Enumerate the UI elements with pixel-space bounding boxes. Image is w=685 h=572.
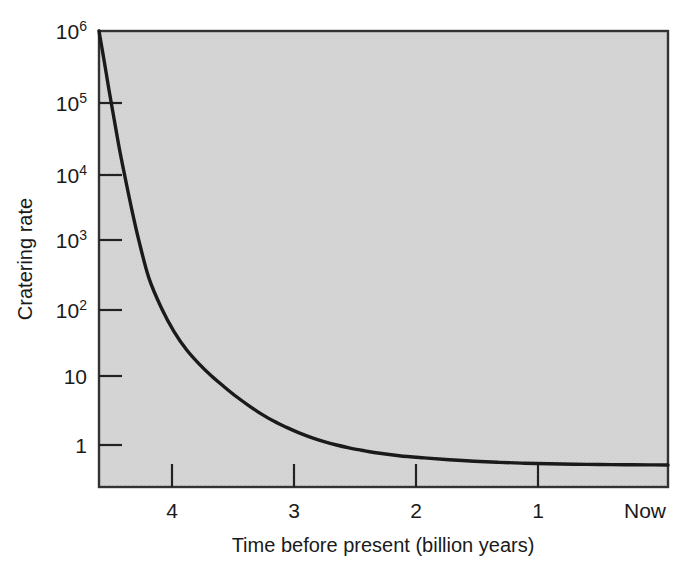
x-tick-label-2: 2 — [410, 499, 422, 522]
y-axis-title: Cratering rate — [14, 198, 36, 320]
x-tick-label-4: Now — [624, 499, 667, 522]
chart-figure: 106 105 104 103 102 10 1 4 3 2 1 Now — [0, 0, 685, 572]
x-tick-label-0: 4 — [166, 499, 178, 522]
y-tick-label-5: 10 — [64, 365, 87, 388]
x-tick-label-1: 3 — [288, 499, 300, 522]
plot-area-background — [99, 31, 668, 487]
y-tick-label-6: 1 — [75, 434, 87, 457]
x-tick-label-3: 1 — [532, 499, 544, 522]
cratering-rate-chart-svg: 106 105 104 103 102 10 1 4 3 2 1 Now — [0, 0, 685, 572]
x-axis-title: Time before present (billion years) — [232, 534, 535, 556]
